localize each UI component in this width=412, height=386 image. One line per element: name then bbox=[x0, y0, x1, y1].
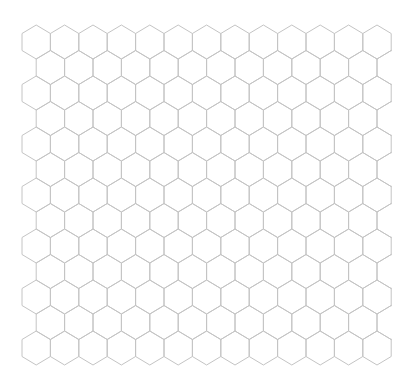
hex-cell bbox=[121, 51, 149, 85]
hex-cell bbox=[50, 76, 78, 110]
hex-cell bbox=[136, 229, 164, 263]
hex-cell bbox=[249, 76, 277, 110]
hex-cell bbox=[65, 51, 93, 85]
hex-cell bbox=[65, 255, 93, 289]
hex-cell bbox=[93, 102, 121, 136]
hex-cell bbox=[164, 280, 192, 314]
hex-cell bbox=[263, 51, 291, 85]
hex-cell bbox=[107, 25, 135, 59]
hex-cell bbox=[320, 102, 348, 136]
hex-cell bbox=[306, 127, 334, 161]
hex-cell bbox=[136, 178, 164, 212]
hex-cell bbox=[263, 102, 291, 136]
hex-cell bbox=[221, 76, 249, 110]
hex-cell bbox=[349, 51, 377, 85]
hex-cell bbox=[207, 51, 235, 85]
hex-cell bbox=[150, 204, 178, 238]
hex-cell bbox=[363, 280, 391, 314]
hex-cell bbox=[150, 102, 178, 136]
hex-cell bbox=[65, 306, 93, 340]
hex-cell bbox=[192, 127, 220, 161]
hex-cell bbox=[79, 25, 107, 59]
hex-cell bbox=[349, 306, 377, 340]
hex-cell bbox=[150, 153, 178, 187]
hex-cell bbox=[320, 153, 348, 187]
hex-cell bbox=[50, 280, 78, 314]
hex-cell bbox=[178, 51, 206, 85]
hex-cell bbox=[249, 178, 277, 212]
hex-cell bbox=[150, 255, 178, 289]
hex-cell bbox=[278, 178, 306, 212]
hex-cell bbox=[263, 153, 291, 187]
hex-cell bbox=[377, 255, 405, 289]
hex-cell bbox=[235, 51, 263, 85]
hex-cell bbox=[306, 76, 334, 110]
hex-cell bbox=[221, 331, 249, 365]
hex-cell bbox=[263, 255, 291, 289]
hex-cell bbox=[207, 102, 235, 136]
hex-cell bbox=[278, 280, 306, 314]
hex-cell bbox=[22, 229, 50, 263]
hex-cell bbox=[292, 204, 320, 238]
hex-cell bbox=[93, 255, 121, 289]
hex-cell bbox=[207, 306, 235, 340]
hex-cell bbox=[221, 127, 249, 161]
hex-cell bbox=[178, 204, 206, 238]
hex-cell bbox=[292, 51, 320, 85]
hex-cell bbox=[221, 178, 249, 212]
hex-cell bbox=[150, 51, 178, 85]
hex-cell bbox=[164, 76, 192, 110]
hex-cell bbox=[207, 153, 235, 187]
hex-cell bbox=[136, 331, 164, 365]
hex-cell bbox=[164, 229, 192, 263]
hex-cell bbox=[235, 255, 263, 289]
hex-cell bbox=[36, 51, 64, 85]
hex-cell bbox=[22, 127, 50, 161]
hex-cell bbox=[235, 102, 263, 136]
hex-cell bbox=[334, 76, 362, 110]
hex-cell bbox=[107, 229, 135, 263]
hex-cell bbox=[79, 76, 107, 110]
hex-cell bbox=[164, 127, 192, 161]
hex-cell bbox=[79, 280, 107, 314]
hex-cell bbox=[334, 331, 362, 365]
hex-cell bbox=[93, 306, 121, 340]
hex-cell bbox=[65, 204, 93, 238]
hex-cell bbox=[150, 306, 178, 340]
hex-cell bbox=[306, 229, 334, 263]
hex-cell bbox=[334, 229, 362, 263]
hex-cell bbox=[292, 102, 320, 136]
hex-cell bbox=[136, 76, 164, 110]
hex-cell bbox=[121, 255, 149, 289]
hex-cell bbox=[22, 280, 50, 314]
hex-cell bbox=[263, 204, 291, 238]
hex-cell bbox=[320, 51, 348, 85]
hex-cell bbox=[22, 331, 50, 365]
hex-cell bbox=[306, 25, 334, 59]
hex-cell bbox=[235, 306, 263, 340]
hex-cell bbox=[349, 204, 377, 238]
hex-cell bbox=[306, 178, 334, 212]
hex-cell bbox=[292, 153, 320, 187]
hex-cell bbox=[178, 102, 206, 136]
hex-cell bbox=[107, 127, 135, 161]
hex-cell bbox=[36, 102, 64, 136]
hex-cell bbox=[377, 153, 405, 187]
hex-grid bbox=[0, 0, 412, 386]
hex-cell bbox=[136, 25, 164, 59]
hex-cell bbox=[192, 280, 220, 314]
hex-cell bbox=[320, 255, 348, 289]
hex-cell bbox=[278, 127, 306, 161]
hex-cell bbox=[22, 76, 50, 110]
hex-cell bbox=[377, 306, 405, 340]
hex-cell bbox=[136, 127, 164, 161]
hex-cell bbox=[50, 229, 78, 263]
hex-cell bbox=[363, 127, 391, 161]
hex-cell bbox=[79, 127, 107, 161]
hex-cell bbox=[192, 76, 220, 110]
hex-cell bbox=[292, 306, 320, 340]
hex-cell bbox=[107, 331, 135, 365]
hex-cell bbox=[93, 153, 121, 187]
hex-cell bbox=[50, 127, 78, 161]
hex-cell bbox=[121, 102, 149, 136]
